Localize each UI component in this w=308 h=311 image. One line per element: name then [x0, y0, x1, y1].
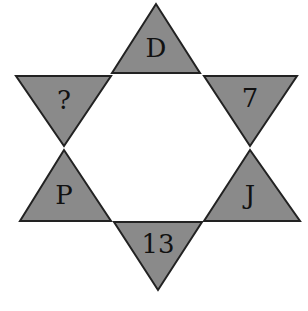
triangle-upper-right: 7 — [204, 76, 297, 146]
triangle-lower-left: P — [20, 150, 111, 221]
label-top: D — [146, 33, 167, 63]
label-bottom: 13 — [141, 229, 174, 259]
label-lower-left: P — [55, 180, 73, 210]
triangle-upper-left: ? — [16, 76, 111, 146]
label-upper-right: 7 — [242, 83, 259, 113]
label-upper-left-question: ? — [57, 85, 71, 115]
triangle-lower-right: J — [204, 150, 300, 221]
triangle-top: D — [112, 4, 200, 73]
triangle-bottom: 13 — [114, 222, 202, 290]
star-puzzle-diagram: D 7 J 13 P ? — [0, 0, 308, 311]
label-lower-right: J — [242, 180, 255, 210]
